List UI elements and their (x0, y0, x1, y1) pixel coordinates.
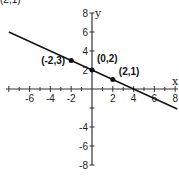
y-tick-label: -4 (79, 122, 88, 133)
data-points: (-2,3)(0,2)(2,1) (41, 53, 139, 82)
point-label: (-2,3) (41, 55, 65, 66)
x-tick-label: -2 (67, 93, 76, 104)
x-tick-label: 4 (131, 93, 137, 104)
y-axis-label: y (94, 7, 102, 20)
x-tick-label: 8 (172, 93, 178, 104)
point-label: (2,1) (119, 66, 140, 77)
y-tick-label: 6 (82, 27, 88, 38)
point-label: (0,2) (97, 53, 118, 64)
y-tick-label: -8 (79, 160, 88, 171)
y-tick-label: 4 (82, 46, 88, 57)
data-point (110, 77, 115, 82)
x-tick-label: -4 (46, 93, 55, 104)
coordinate-plot: -6-4-224688642-4-6-8yx (-2,3)(0,2)(2,1) (0, 0, 179, 176)
y-tick-label: 8 (82, 8, 88, 19)
y-tick-label: -6 (79, 141, 88, 152)
data-point (90, 68, 95, 73)
axes (6, 13, 178, 165)
x-axis-label: x (172, 75, 179, 88)
data-point (69, 58, 74, 63)
x-tick-label: -6 (25, 93, 34, 104)
x-tick-label: 2 (110, 93, 116, 104)
